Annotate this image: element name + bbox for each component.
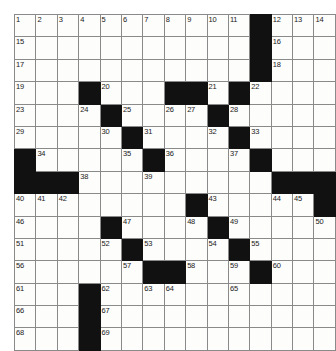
crossword-cell[interactable] xyxy=(271,306,292,328)
crossword-cell[interactable] xyxy=(271,216,292,238)
crossword-cell[interactable]: 39 xyxy=(143,171,164,193)
crossword-cell[interactable]: 22 xyxy=(250,82,271,104)
crossword-cell[interactable]: 8 xyxy=(164,15,185,37)
crossword-cell[interactable] xyxy=(121,82,142,104)
crossword-cell[interactable]: 37 xyxy=(228,149,249,171)
crossword-cell[interactable] xyxy=(314,261,336,283)
crossword-cell[interactable] xyxy=(164,171,185,193)
crossword-cell[interactable]: 33 xyxy=(250,126,271,148)
crossword-cell[interactable]: 17 xyxy=(15,59,36,81)
crossword-cell[interactable]: 55 xyxy=(250,238,271,260)
crossword-cell[interactable] xyxy=(79,37,100,59)
crossword-cell[interactable] xyxy=(207,149,228,171)
crossword-cell[interactable] xyxy=(228,171,249,193)
crossword-cell[interactable] xyxy=(186,59,207,81)
crossword-cell[interactable] xyxy=(271,238,292,260)
crossword-cell[interactable] xyxy=(36,328,57,350)
crossword-cell[interactable]: 53 xyxy=(143,238,164,260)
crossword-cell[interactable] xyxy=(79,238,100,260)
crossword-cell[interactable]: 62 xyxy=(100,283,121,305)
crossword-cell[interactable]: 51 xyxy=(15,238,36,260)
crossword-cell[interactable] xyxy=(164,328,185,350)
crossword-cell[interactable] xyxy=(143,306,164,328)
crossword-cell[interactable]: 61 xyxy=(15,283,36,305)
crossword-cell[interactable] xyxy=(121,306,142,328)
crossword-cell[interactable] xyxy=(228,328,249,350)
crossword-cell[interactable] xyxy=(164,37,185,59)
crossword-cell[interactable] xyxy=(314,238,336,260)
crossword-cell[interactable] xyxy=(293,238,314,260)
crossword-cell[interactable]: 63 xyxy=(143,283,164,305)
crossword-cell[interactable]: 10 xyxy=(207,15,228,37)
crossword-cell[interactable] xyxy=(57,306,78,328)
crossword-cell[interactable] xyxy=(207,306,228,328)
crossword-cell[interactable]: 50 xyxy=(314,216,336,238)
crossword-cell[interactable] xyxy=(186,149,207,171)
crossword-cell[interactable] xyxy=(207,328,228,350)
crossword-cell[interactable] xyxy=(164,216,185,238)
crossword-cell[interactable] xyxy=(271,328,292,350)
crossword-cell[interactable]: 24 xyxy=(79,104,100,126)
crossword-cell[interactable] xyxy=(143,104,164,126)
crossword-cell[interactable] xyxy=(121,194,142,216)
crossword-cell[interactable]: 40 xyxy=(15,194,36,216)
crossword-cell[interactable]: 29 xyxy=(15,126,36,148)
crossword-cell[interactable]: 7 xyxy=(143,15,164,37)
crossword-cell[interactable] xyxy=(207,261,228,283)
crossword-cell[interactable] xyxy=(57,149,78,171)
crossword-cell[interactable]: 56 xyxy=(15,261,36,283)
crossword-cell[interactable] xyxy=(143,328,164,350)
crossword-cell[interactable] xyxy=(36,216,57,238)
crossword-cell[interactable] xyxy=(271,283,292,305)
crossword-cell[interactable] xyxy=(293,82,314,104)
crossword-cell[interactable] xyxy=(186,126,207,148)
crossword-cell[interactable]: 16 xyxy=(271,37,292,59)
crossword-cell[interactable] xyxy=(250,194,271,216)
crossword-cell[interactable] xyxy=(100,194,121,216)
crossword-cell[interactable]: 38 xyxy=(79,171,100,193)
crossword-cell[interactable] xyxy=(100,171,121,193)
crossword-cell[interactable] xyxy=(314,82,336,104)
crossword-cell[interactable] xyxy=(100,149,121,171)
crossword-cell[interactable] xyxy=(164,238,185,260)
crossword-cell[interactable]: 49 xyxy=(228,216,249,238)
crossword-cell[interactable] xyxy=(79,126,100,148)
crossword-cell[interactable] xyxy=(314,306,336,328)
crossword-cell[interactable]: 48 xyxy=(186,216,207,238)
crossword-cell[interactable]: 65 xyxy=(228,283,249,305)
crossword-cell[interactable]: 44 xyxy=(271,194,292,216)
crossword-cell[interactable] xyxy=(143,194,164,216)
crossword-cell[interactable]: 19 xyxy=(15,82,36,104)
crossword-cell[interactable] xyxy=(186,306,207,328)
crossword-cell[interactable] xyxy=(121,328,142,350)
crossword-cell[interactable]: 31 xyxy=(143,126,164,148)
crossword-cell[interactable] xyxy=(36,283,57,305)
crossword-cell[interactable] xyxy=(121,59,142,81)
crossword-cell[interactable]: 15 xyxy=(15,37,36,59)
crossword-cell[interactable] xyxy=(36,238,57,260)
crossword-cell[interactable] xyxy=(293,37,314,59)
crossword-cell[interactable] xyxy=(36,261,57,283)
crossword-cell[interactable]: 14 xyxy=(314,15,336,37)
crossword-cell[interactable] xyxy=(79,194,100,216)
crossword-cell[interactable]: 11 xyxy=(228,15,249,37)
crossword-cell[interactable] xyxy=(57,261,78,283)
crossword-cell[interactable] xyxy=(207,283,228,305)
crossword-cell[interactable] xyxy=(314,126,336,148)
crossword-cell[interactable] xyxy=(207,37,228,59)
crossword-cell[interactable]: 52 xyxy=(100,238,121,260)
crossword-cell[interactable] xyxy=(36,306,57,328)
crossword-cell[interactable]: 41 xyxy=(36,194,57,216)
crossword-cell[interactable] xyxy=(293,216,314,238)
crossword-cell[interactable] xyxy=(186,238,207,260)
crossword-cell[interactable] xyxy=(36,37,57,59)
crossword-cell[interactable]: 67 xyxy=(100,306,121,328)
crossword-cell[interactable] xyxy=(57,216,78,238)
crossword-cell[interactable] xyxy=(143,37,164,59)
crossword-cell[interactable] xyxy=(57,283,78,305)
crossword-cell[interactable] xyxy=(143,216,164,238)
crossword-cell[interactable] xyxy=(143,82,164,104)
crossword-cell[interactable] xyxy=(79,59,100,81)
crossword-cell[interactable] xyxy=(207,171,228,193)
crossword-cell[interactable]: 57 xyxy=(121,261,142,283)
